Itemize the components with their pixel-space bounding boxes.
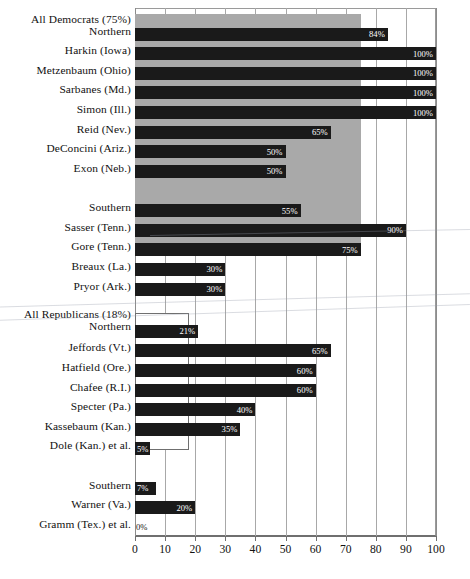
tick-70 xyxy=(346,536,347,541)
bar-value-label: 100% xyxy=(413,108,433,117)
tick-label-20: 20 xyxy=(189,544,201,556)
tick-50 xyxy=(286,536,287,541)
category-label-column: All Democrats (75%)NorthernHarkin (Iowa)… xyxy=(0,0,131,579)
bar: 5% xyxy=(135,442,150,455)
tick-label-80: 80 xyxy=(370,544,382,556)
bar-value-label: 60% xyxy=(297,386,313,395)
bar: 100% xyxy=(135,67,436,80)
category-label: Sarbanes (Md.) xyxy=(0,84,131,95)
tick-0 xyxy=(135,536,136,541)
bar-value-label: 50% xyxy=(267,147,283,156)
bar: 30% xyxy=(135,283,225,296)
category-label: Dole (Kan.) et al. xyxy=(0,440,131,451)
tick-90 xyxy=(406,536,407,541)
bar-value-label: 30% xyxy=(207,265,223,274)
bar: 90% xyxy=(135,224,406,237)
category-label: Gore (Tenn.) xyxy=(0,241,131,252)
bar-value-label: 20% xyxy=(176,504,192,513)
category-label: Warner (Va.) xyxy=(0,499,131,510)
category-label: Reid (Nev.) xyxy=(0,124,131,135)
bar-value-label: 75% xyxy=(342,246,358,255)
category-label: Gramm (Tex.) et al. xyxy=(0,519,131,530)
bar: 50% xyxy=(135,145,286,158)
bar-value-label: 40% xyxy=(237,405,253,414)
category-label: Kassebaum (Kan.) xyxy=(0,421,131,432)
category-label: Pryor (Ark.) xyxy=(0,281,131,292)
bar-value-label: 5% xyxy=(137,445,148,454)
bar: 30% xyxy=(135,263,225,276)
bar: 21% xyxy=(135,325,198,338)
category-label: Northern xyxy=(0,321,131,332)
category-label: All Republicans (18%) xyxy=(0,309,131,320)
tick-label-40: 40 xyxy=(250,544,262,556)
category-label: Simon (Ill.) xyxy=(0,104,131,115)
bar: 40% xyxy=(135,403,255,416)
bar: 100% xyxy=(135,106,436,119)
bar: 75% xyxy=(135,243,361,256)
bar-value-label: 100% xyxy=(413,89,433,98)
bar: 100% xyxy=(135,86,436,99)
category-label: Harkin (Iowa) xyxy=(0,45,131,56)
category-label: Jeffords (Vt.) xyxy=(0,342,131,353)
bar: 35% xyxy=(135,423,240,436)
tick-label-10: 10 xyxy=(159,544,171,556)
category-label: Chafee (R.I.) xyxy=(0,382,131,393)
tick-label-30: 30 xyxy=(220,544,232,556)
tick-60 xyxy=(316,536,317,541)
bar-value-label: 100% xyxy=(413,49,433,58)
tick-label-60: 60 xyxy=(310,544,322,556)
bar-value-label: 35% xyxy=(222,425,238,434)
bar: 65% xyxy=(135,126,331,139)
tick-label-50: 50 xyxy=(280,544,292,556)
bar-value-label: 21% xyxy=(179,327,195,336)
tick-label-90: 90 xyxy=(400,544,412,556)
bar-value-label: 30% xyxy=(207,285,223,294)
category-label: Sasser (Tenn.) xyxy=(0,222,131,233)
bar-value-label: 50% xyxy=(267,167,283,176)
tick-20 xyxy=(195,536,196,541)
category-label: DeConcini (Ariz.) xyxy=(0,143,131,154)
tick-10 xyxy=(165,536,166,541)
bar-value-label: 65% xyxy=(312,347,328,356)
plot-area: 84%100%100%100%100%65%50%50%55%90%75%30%… xyxy=(135,8,436,536)
bar-value-label: 55% xyxy=(282,206,298,215)
category-label: Breaux (La.) xyxy=(0,261,131,272)
tick-label-0: 0 xyxy=(132,544,138,556)
category-label: Southern xyxy=(0,202,131,213)
category-label: Southern xyxy=(0,480,131,491)
bar: 60% xyxy=(135,364,316,377)
tick-40 xyxy=(255,536,256,541)
bar-value-label: 0% xyxy=(136,523,147,532)
bar: 100% xyxy=(135,47,436,60)
bar-value-label: 60% xyxy=(297,366,313,375)
gridline-100 xyxy=(436,8,437,536)
bar-value-label: 100% xyxy=(413,69,433,78)
bar-value-label: 7% xyxy=(137,484,148,493)
bar-value-label: 65% xyxy=(312,128,328,137)
bar: 65% xyxy=(135,344,331,357)
bar: 84% xyxy=(135,28,388,41)
category-label: Exon (Neb.) xyxy=(0,163,131,174)
category-label: Northern xyxy=(0,26,131,37)
tick-100 xyxy=(436,536,437,541)
bar: 20% xyxy=(135,501,195,514)
category-label: All Democrats (75%) xyxy=(0,14,131,25)
tick-30 xyxy=(225,536,226,541)
bar: 7% xyxy=(135,482,156,495)
bar: 50% xyxy=(135,165,286,178)
bar: 55% xyxy=(135,204,301,217)
bar-value-label: 84% xyxy=(369,30,385,39)
tick-80 xyxy=(376,536,377,541)
category-label: Hatfield (Ore.) xyxy=(0,362,131,373)
tick-label-70: 70 xyxy=(340,544,352,556)
x-axis: 0102030405060708090100 xyxy=(135,536,436,576)
bar-value-label: 90% xyxy=(387,226,403,235)
category-label: Metzenbaum (Ohio) xyxy=(0,65,131,76)
bar: 60% xyxy=(135,384,316,397)
tick-label-100: 100 xyxy=(427,544,444,556)
category-label: Specter (Pa.) xyxy=(0,401,131,412)
